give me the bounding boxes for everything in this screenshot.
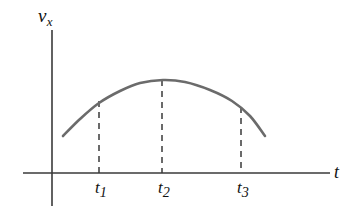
tick-label-t3-subscript: 3 (242, 184, 249, 200)
tick-label-t2-subscript: 2 (163, 184, 170, 200)
y-axis-label-symbol: v (38, 5, 46, 26)
velocity-time-graph-figure: vx t t1 t2 t3 (0, 0, 359, 206)
x-axis-label: t (334, 163, 339, 181)
velocity-curve (63, 80, 265, 136)
tick-label-t3: t3 (237, 179, 249, 200)
tick-label-t2: t2 (158, 179, 170, 200)
plot-canvas (0, 0, 359, 206)
tick-label-t1-subscript: 1 (100, 184, 107, 200)
y-axis-label: vx (38, 6, 52, 25)
x-axis-label-symbol: t (334, 162, 339, 182)
tick-label-t1: t1 (95, 179, 107, 200)
y-axis-label-subscript: x (47, 14, 53, 29)
